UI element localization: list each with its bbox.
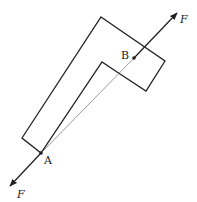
line-of-action-ab (41, 58, 134, 153)
force-arrow-a (10, 153, 41, 186)
force-arrow-b (134, 13, 177, 58)
point-b-label: B (121, 49, 129, 62)
force-label-top: F (179, 13, 188, 26)
point-a-label: A (43, 154, 53, 167)
point-a-dot (39, 151, 43, 155)
bracket-outline (22, 17, 165, 153)
l-bracket-diagram: A B F F (0, 0, 197, 202)
point-b-dot (132, 56, 136, 60)
force-label-bottom: F (16, 188, 25, 201)
